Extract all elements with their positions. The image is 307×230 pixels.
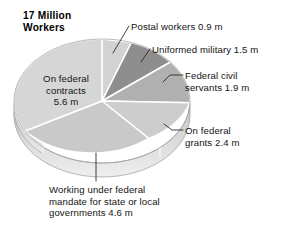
- label-postal-workers-text: Postal workers 0.9 m: [131, 21, 223, 32]
- label-federal-mandate-line-3: governments 4.6 m: [49, 207, 160, 219]
- label-federal-mandate: Working under federal mandate for state …: [49, 184, 160, 219]
- label-federal-civil-servants: Federal civil servants 1.9 m: [185, 70, 249, 93]
- label-federal-civil-servants-line-1: Federal civil: [185, 70, 249, 82]
- label-on-federal-contracts-line-3: 5.6 m: [28, 96, 104, 108]
- label-federal-civil-servants-line-2: servants 1.9 m: [185, 82, 249, 94]
- label-on-federal-contracts-line-1: On federal: [28, 73, 104, 85]
- chart-title: 17 Million Workers: [23, 10, 71, 35]
- label-on-federal-grants: On federal grants 2.4 m: [185, 125, 240, 148]
- label-postal-workers: Postal workers 0.9 m: [131, 21, 223, 33]
- label-federal-mandate-line-2: mandate for state or local: [49, 196, 160, 208]
- label-on-federal-contracts: On federal contracts 5.6 m: [28, 73, 104, 108]
- pie-chart-figure: 17 Million Workers Postal workers 0.9 m …: [0, 0, 307, 230]
- label-uniformed-military: Uniformed military 1.5 m: [152, 44, 258, 56]
- label-federal-mandate-line-1: Working under federal: [49, 184, 160, 196]
- label-on-federal-contracts-line-2: contracts: [28, 85, 104, 97]
- label-on-federal-grants-line-1: On federal: [185, 125, 240, 137]
- label-on-federal-grants-line-2: grants 2.4 m: [185, 137, 240, 149]
- chart-title-line-2: Workers: [23, 22, 71, 34]
- label-uniformed-military-text: Uniformed military 1.5 m: [152, 44, 258, 55]
- chart-title-line-1: 17 Million: [23, 10, 71, 22]
